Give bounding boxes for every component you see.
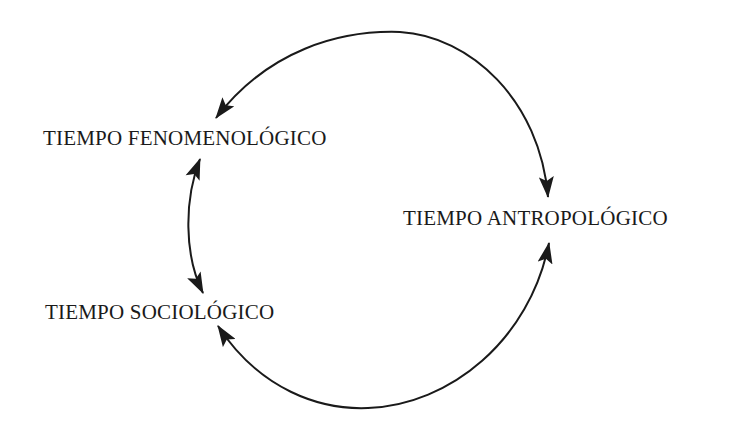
top-arc-arrow: [216, 32, 548, 197]
node-tiempo-antropologico: TIEMPO ANTROPOLÓGICO: [403, 206, 668, 231]
node-tiempo-sociologico: TIEMPO SOCIOLÓGICO: [45, 300, 274, 325]
node-tiempo-fenomenologico: TIEMPO FENOMENOLÓGICO: [43, 126, 327, 151]
bottom-arc-arrow: [218, 243, 549, 408]
cycle-diagram: TIEMPO FENOMENOLÓGICO TIEMPO ANTROPOLÓGI…: [0, 0, 745, 443]
left-double-arrow: [188, 159, 203, 293]
